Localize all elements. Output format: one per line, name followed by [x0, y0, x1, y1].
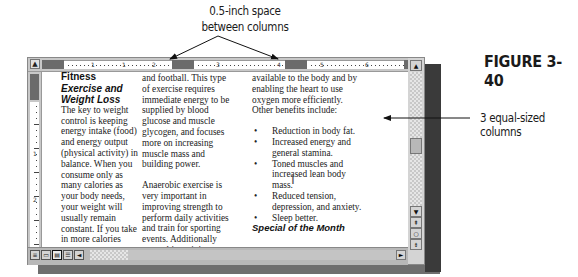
ruler-tick — [254, 65, 255, 66]
ruler-tick — [246, 65, 247, 66]
ruler-tick — [128, 65, 129, 66]
ruler-tick — [222, 65, 223, 66]
vertical-scroll-thumb[interactable] — [410, 138, 422, 154]
ruler-tick — [266, 65, 267, 66]
outline-view-icon: ☰ — [65, 251, 70, 258]
ruler-tick — [164, 65, 165, 66]
vruler-tick — [34, 148, 39, 149]
vruler-tick — [36, 184, 37, 185]
scroll-left-button[interactable]: ◄ — [74, 250, 84, 260]
ruler-tick — [319, 65, 320, 66]
ruler-tick — [327, 65, 328, 66]
ruler-tick — [278, 65, 279, 66]
list-item: Increased energy and general stamina. — [252, 137, 364, 159]
ruler-tick — [226, 65, 227, 66]
paragraph: The key to weight control is keeping ene… — [61, 105, 139, 245]
ruler-tick — [136, 65, 137, 66]
tab-selector-button[interactable]: ▲ — [30, 59, 40, 69]
ruler-tick — [210, 65, 211, 66]
ruler-tick — [234, 65, 235, 66]
scroll-right-button[interactable]: ► — [396, 250, 406, 260]
ruler-tick — [270, 65, 271, 66]
scroll-up-button[interactable]: ▲ — [410, 60, 422, 71]
ruler-tick — [238, 65, 239, 66]
select-browse-object-icon: ○ — [413, 230, 418, 237]
paragraph: Anaerobic exercise is very important in … — [142, 180, 234, 247]
ruler-tick — [160, 65, 161, 66]
vertical-ruler[interactable]: 1 2 — [28, 72, 42, 247]
ruler-tick — [311, 65, 312, 66]
ruler-tick — [323, 65, 324, 66]
ruler-tick — [104, 65, 105, 66]
heading-special-of-the-month: Special of the Month — [252, 223, 364, 234]
callout-line-2: between columns — [180, 19, 310, 35]
ruler-tick — [116, 65, 117, 66]
horizontal-scrollbar[interactable]: ≡ ▭ ▤ ☰ ◄ ► — [28, 247, 408, 265]
ruler-column-gap-1[interactable] — [172, 60, 194, 69]
ruler-column-gap-2[interactable] — [285, 60, 307, 69]
vruler-tick — [36, 142, 37, 143]
list-item: Reduction in body fat. — [252, 126, 364, 137]
print-layout-view-button[interactable]: ▤ — [52, 250, 62, 260]
scroll-right-icon: ► — [399, 251, 404, 258]
vruler-tick — [34, 124, 39, 125]
ruler-tick — [387, 65, 388, 66]
ruler-tick — [144, 65, 145, 66]
ruler-tick — [347, 65, 348, 66]
ruler-tick — [202, 65, 203, 66]
ruler-tick — [124, 65, 125, 66]
ruler-tick — [76, 65, 77, 66]
ruler-tick — [112, 65, 113, 66]
ruler-tick — [148, 65, 149, 66]
vruler-top-margin — [30, 74, 39, 100]
web-layout-view-button[interactable]: ▭ — [41, 250, 51, 260]
paragraph: available to the body and by enabling th… — [252, 73, 364, 116]
horizontal-scroll-thumb[interactable] — [128, 250, 398, 260]
vruler-tick — [36, 226, 37, 227]
ruler-tick — [68, 65, 69, 66]
ruler-tick — [274, 65, 275, 66]
list-item: Sleep better. — [252, 213, 364, 224]
vruler-tick — [36, 214, 37, 215]
vruler-tick — [34, 244, 39, 245]
paragraph: and football. This type of exercise requ… — [142, 73, 234, 170]
vruler-tick — [36, 232, 37, 233]
document-page[interactable]: Fitness Exercise and Weight Loss The key… — [42, 72, 408, 247]
next-page-icon: ⇟ — [413, 241, 418, 248]
normal-view-button[interactable]: ≡ — [30, 250, 40, 260]
list-item: Toned muscles and increased lean body ma… — [252, 159, 364, 191]
scroll-left-icon: ◄ — [77, 251, 82, 258]
next-page-button[interactable]: ⇟ — [410, 239, 422, 250]
ruler-tick — [391, 65, 392, 66]
ruler-tick — [339, 65, 340, 66]
vertical-scrollbar[interactable]: ▲ ▼ ⇞ ○ ⇟ — [408, 58, 424, 264]
vruler-tick — [36, 208, 37, 209]
column-spacing-callout: 0.5-inch space between columns — [180, 3, 310, 35]
web-layout-icon: ▭ — [43, 251, 49, 258]
outline-view-button[interactable]: ☰ — [63, 250, 73, 260]
horizontal-ruler[interactable]: ▲ 1 1 2 3 4 5 6 — [28, 58, 424, 72]
print-layout-icon: ▤ — [54, 251, 60, 258]
window-shadow-edge — [425, 64, 441, 272]
vruler-tick — [36, 130, 37, 131]
ruler-tick — [206, 65, 207, 66]
ruler-tick — [168, 65, 169, 66]
ruler-tick — [214, 65, 215, 66]
vruler-tick — [36, 202, 37, 203]
select-browse-object-button[interactable]: ○ — [410, 228, 422, 239]
ruler-tick — [132, 65, 133, 66]
vruler-tick — [36, 178, 37, 179]
ruler-tick — [140, 65, 141, 66]
tab-selector-icon: ▲ — [32, 60, 37, 68]
equal-columns-callout: 3 equal-sized columns — [480, 111, 578, 139]
scroll-down-button[interactable]: ▼ — [410, 206, 422, 217]
spacing-arrow-left — [170, 36, 218, 59]
ruler-tick — [363, 65, 364, 66]
previous-page-button[interactable]: ⇞ — [410, 217, 422, 228]
ruler-tick — [198, 65, 199, 66]
vruler-tick — [34, 172, 39, 173]
ruler-tick — [383, 65, 384, 66]
vruler-tick — [34, 196, 39, 197]
ruler-tick — [315, 65, 316, 66]
ruler-tick — [343, 65, 344, 66]
